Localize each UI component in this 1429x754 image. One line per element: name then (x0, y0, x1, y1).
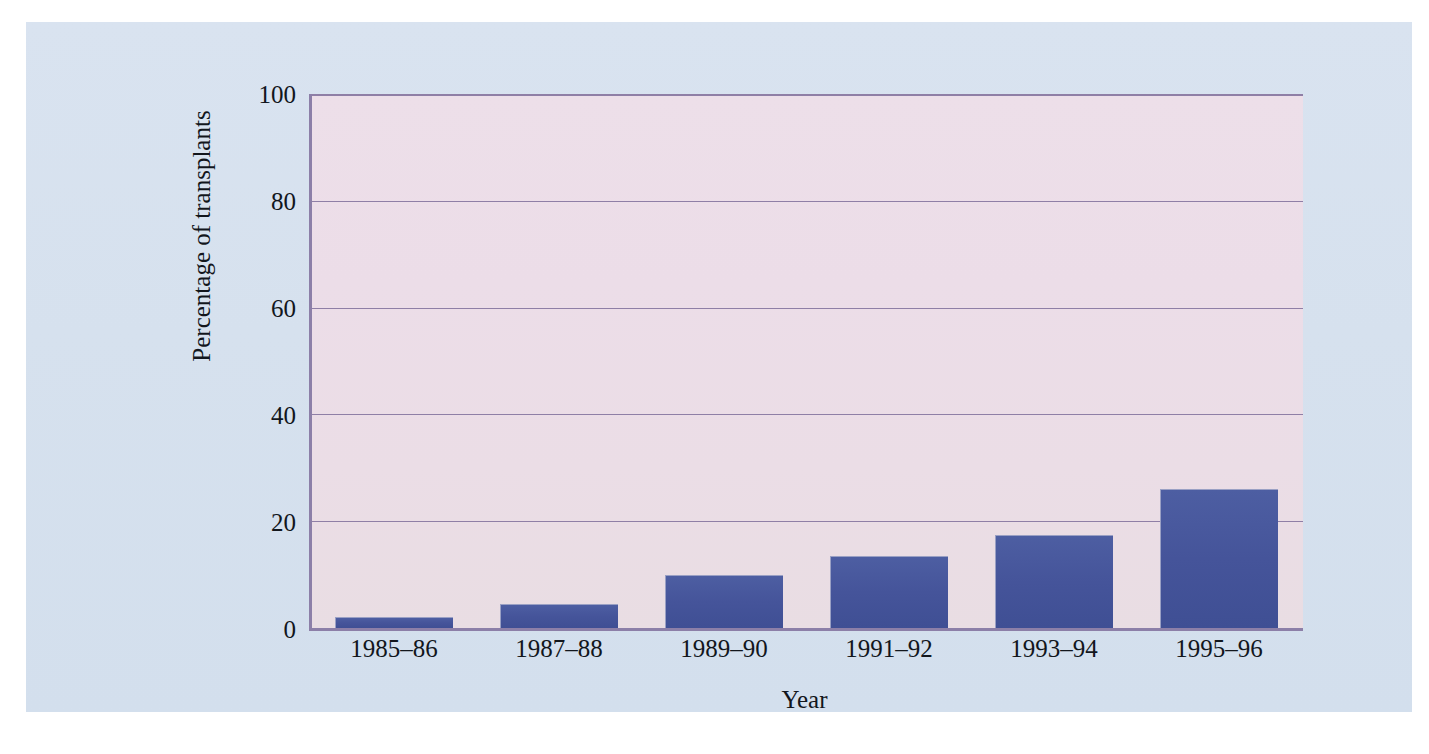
bar-1989-90[interactable] (665, 575, 783, 628)
bar-1985-86[interactable] (335, 617, 453, 628)
y-tick-label-60: 60 (226, 296, 296, 321)
x-tick-label-1991-92: 1991–92 (824, 636, 954, 661)
y-tick-label-80: 80 (226, 189, 296, 214)
figure-panel: 100 80 60 40 20 0 Percentage of transpla… (26, 22, 1412, 712)
y-tick-label-100: 100 (226, 82, 296, 107)
bar-1987-88[interactable] (500, 604, 618, 628)
y-axis-tick-labels: 100 80 60 40 20 0 (216, 94, 296, 628)
y-tick-label-0: 0 (226, 617, 296, 642)
x-tick-label-1995-96: 1995–96 (1154, 636, 1284, 661)
x-axis-tick-labels: 1985–86 1987–88 1989–90 1991–92 1993–94 … (309, 636, 1300, 676)
x-axis-title: Year (309, 686, 1300, 714)
bar-1991-92[interactable] (830, 556, 948, 628)
y-tick-label-20: 20 (226, 510, 296, 535)
y-axis-title: Percentage of transplants (188, 71, 216, 401)
bar-1993-94[interactable] (995, 535, 1113, 628)
bars-layer (309, 94, 1300, 628)
x-tick-label-1985-86: 1985–86 (329, 636, 459, 661)
x-tick-label-1993-94: 1993–94 (989, 636, 1119, 661)
x-tick-label-1989-90: 1989–90 (659, 636, 789, 661)
chart-figure: 100 80 60 40 20 0 Percentage of transpla… (0, 0, 1429, 754)
y-tick-label-40: 40 (226, 403, 296, 428)
bar-1995-96[interactable] (1160, 489, 1278, 628)
x-tick-label-1987-88: 1987–88 (494, 636, 624, 661)
